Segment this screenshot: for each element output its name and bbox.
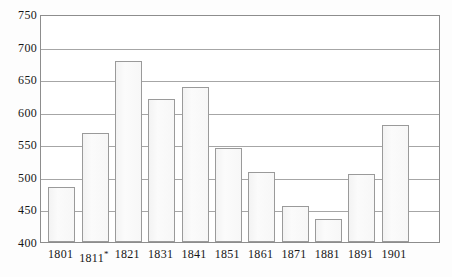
bar (348, 174, 375, 242)
y-tick-label: 600 (1, 107, 37, 119)
y-tick-label: 450 (1, 204, 37, 216)
bar (382, 125, 409, 242)
y-tick-label: 650 (1, 74, 37, 86)
plot-area (40, 15, 440, 243)
y-tick-label: 500 (1, 172, 37, 184)
bar (148, 99, 175, 242)
bar (215, 148, 242, 242)
bar (82, 133, 109, 242)
y-tick-label: 750 (1, 9, 37, 21)
bar (282, 206, 309, 242)
bar (48, 187, 75, 242)
y-tick-label: 700 (1, 42, 37, 54)
bar (315, 219, 342, 242)
x-tick-label: 1901 (364, 247, 424, 261)
bar (248, 172, 275, 242)
bar (182, 87, 209, 242)
bar-chart: 400450500550600650700750 18011811*182118… (0, 0, 452, 277)
bar (115, 61, 142, 242)
y-tick-label: 550 (1, 139, 37, 151)
bars (41, 16, 439, 242)
